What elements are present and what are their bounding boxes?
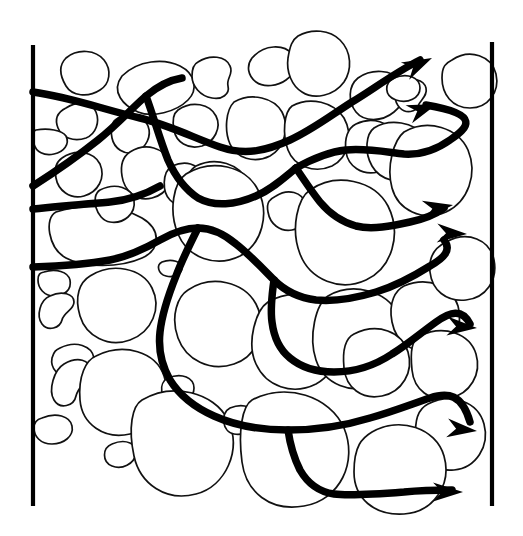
grain-26 xyxy=(78,268,156,342)
grain-1 xyxy=(61,51,109,95)
grain-22 xyxy=(295,180,394,284)
grain-27 xyxy=(38,270,70,296)
grain-5 xyxy=(288,31,350,96)
grain-37 xyxy=(34,415,72,444)
grain-23 xyxy=(390,126,472,216)
grain-28 xyxy=(175,282,261,367)
grain-48 xyxy=(442,54,497,108)
grain-32 xyxy=(430,237,495,300)
grain-46 xyxy=(354,425,446,514)
grain-9 xyxy=(33,129,68,154)
grain-44 xyxy=(411,331,477,399)
flow-diagram-canvas xyxy=(0,0,523,536)
grain-40 xyxy=(131,391,233,496)
porous-medium-flow-figure xyxy=(0,0,523,536)
